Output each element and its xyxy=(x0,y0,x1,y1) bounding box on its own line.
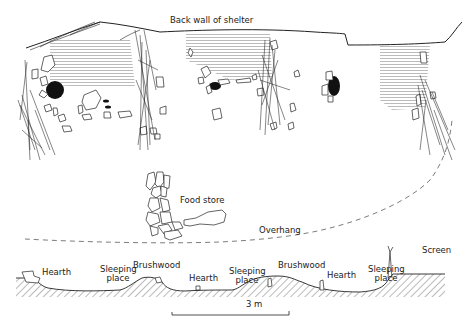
back-wall-label: Back wall of shelter xyxy=(170,16,253,25)
hearth-label-2: Hearth xyxy=(189,274,218,283)
brushwood-label-1: Brushwood xyxy=(133,261,180,270)
shelter-diagram: Back wall of shelter Food store Overhang… xyxy=(0,0,463,329)
brushwood-label-2: Brushwood xyxy=(278,261,325,270)
food-store-label: Food store xyxy=(180,196,225,205)
overhang-line xyxy=(25,120,452,243)
scale-label: 3 m xyxy=(246,300,262,309)
sleeping-place-label-3: Sleeping place xyxy=(368,265,404,283)
scale-bar xyxy=(172,311,289,315)
screen-label: Screen xyxy=(422,246,451,255)
sleeping-zones xyxy=(50,32,430,110)
sleeping-place-label-1: Sleeping place xyxy=(100,265,136,283)
sleeping-place-label-2: Sleeping place xyxy=(229,267,265,285)
food-store-stones xyxy=(146,172,226,240)
hearth-label-3: Hearth xyxy=(327,271,356,280)
hearth-label-1: Hearth xyxy=(42,268,71,277)
overhang-label: Overhang xyxy=(259,226,301,235)
